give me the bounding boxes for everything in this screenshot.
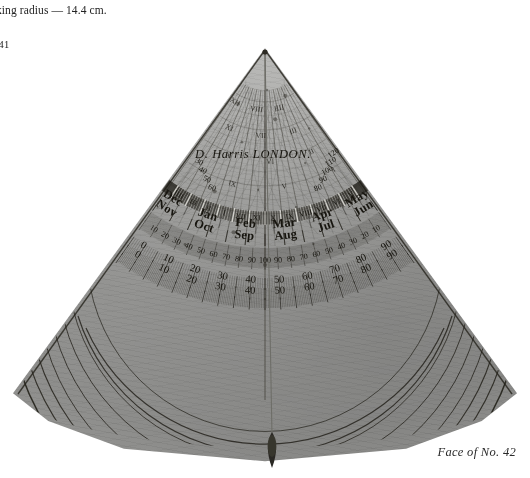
deg-inner-5: 50 [274,273,285,285]
maker-signature: D. Harris LONDON. [194,147,311,161]
engraved-lines: D. Harris LONDON. NovOctSepAugJulJun Dec… [0,28,530,448]
suspension-pivot [262,49,267,54]
hour-numeral-4: VIII [249,104,264,115]
zodiac-numeral-6: X [270,213,276,222]
deg-inner-6: 60 [301,269,313,282]
instrument-stage: D. Harris LONDON. NovOctSepAugJulJun Dec… [0,28,530,448]
deg-shadow-11: 80 [286,254,295,264]
quadrant-photograph: D. Harris LONDON. NovOctSepAugJulJun Dec… [0,28,530,448]
deg-inner-3: 30 [217,269,229,282]
zodiac-numeral-4: XII [235,211,247,221]
deg-shadow-8: 90 [248,255,257,264]
hour-numeral-1: XI [224,122,235,134]
zodiac-numeral-5: XI [253,213,262,222]
deg-inner-0: 0 [139,239,149,251]
deg-inner-4: 40 [245,273,256,285]
deg-shadow-13: 60 [311,249,321,260]
deg-shadow-10: 90 [274,255,283,264]
hour-numeral-8: IIII [273,102,285,113]
plumb-bob-body [268,435,277,457]
deg-shadow-5: 60 [209,249,219,260]
caption-line-1: rking radius — 14.4 cm. [0,2,107,19]
hour-numeral-5: VII [255,131,266,141]
deg-outer-3: 30 [215,280,227,293]
deg-shadow-7: 80 [235,254,244,264]
deg-shadow-15: 40 [336,241,347,252]
deg-outer-5: 50 [274,284,285,296]
plate-caption: Face of No. 42 [438,445,517,460]
deg-shadow-6: 70 [221,252,231,262]
deg-shadow-12: 70 [299,252,309,262]
hour-numeral-7: V [281,181,288,191]
deg-outer-4: 40 [245,284,256,296]
deg-outer-6: 60 [303,280,315,293]
